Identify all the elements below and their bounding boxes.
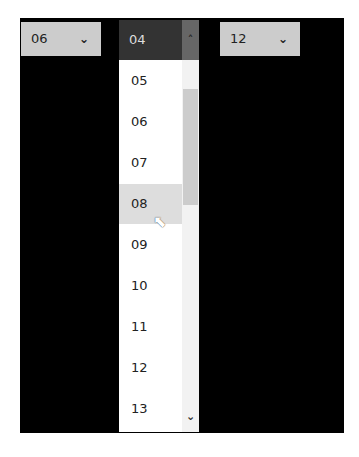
dropdown-selected-item[interactable]: 04 — [119, 20, 182, 60]
chevron-up-icon: ˄ — [188, 33, 194, 46]
chevron-down-icon: ⌄ — [186, 410, 195, 423]
left-select[interactable]: 06 ⌄ — [21, 22, 101, 56]
right-select-value: 12 — [230, 31, 247, 46]
list-item[interactable]: 11 — [119, 307, 182, 347]
chevron-down-icon: ⌄ — [79, 22, 89, 56]
list-item[interactable]: 10 — [119, 266, 182, 306]
chevron-down-icon: ⌄ — [278, 22, 288, 56]
scrollbar-thumb[interactable] — [183, 89, 198, 205]
scroll-down-button[interactable]: ⌄ — [182, 410, 199, 423]
list-item[interactable]: 06 — [119, 102, 182, 142]
list-item[interactable]: 09 — [119, 225, 182, 265]
mouse-cursor-icon: ⬉ — [153, 212, 166, 231]
right-select[interactable]: 12 ⌄ — [220, 22, 300, 56]
list-item[interactable]: 13 — [119, 389, 182, 429]
scrollbar-track[interactable] — [182, 20, 199, 432]
list-item[interactable]: 05 — [119, 61, 182, 101]
scroll-up-button[interactable]: ˄ — [182, 20, 199, 60]
list-item[interactable]: 12 — [119, 348, 182, 388]
left-select-value: 06 — [31, 31, 48, 46]
list-item[interactable]: 07 — [119, 143, 182, 183]
list-item-hovered[interactable]: 08 — [119, 184, 182, 224]
